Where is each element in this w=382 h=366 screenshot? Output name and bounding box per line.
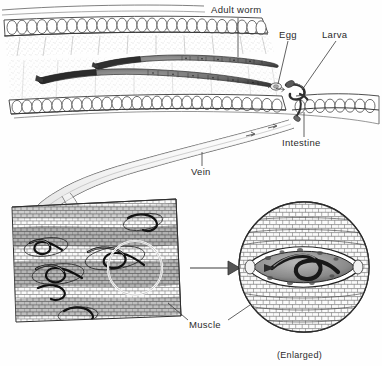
label-vein: Vein (191, 166, 211, 177)
label-egg: Egg (279, 29, 297, 40)
intestine-panel (2, 5, 379, 124)
life-cycle-figure: Adult worm Egg Larva Intestine Vein Musc… (0, 0, 382, 366)
label-adult-worm: Adult worm (211, 4, 262, 15)
label-enlarged: (Enlarged) (277, 350, 322, 360)
label-intestine: Intestine (282, 137, 321, 148)
diagram-artwork (0, 0, 382, 366)
muscle-block (10, 199, 185, 324)
label-muscle: Muscle (189, 319, 221, 330)
enlargement-arrow (190, 261, 240, 275)
enlarged-inset (239, 202, 369, 332)
label-larva: Larva (322, 29, 347, 40)
